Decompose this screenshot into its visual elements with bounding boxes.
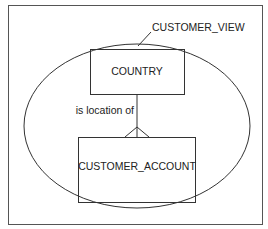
entity-customer-account-label: CUSTOMER_ACCOUNT [78, 160, 196, 172]
crows-foot-right [137, 127, 149, 137]
crows-foot-left [125, 127, 137, 137]
relationship-label: is location of [76, 104, 134, 116]
entity-country-label: COUNTRY [111, 65, 163, 77]
view-label: CUSTOMER_VIEW [152, 21, 245, 33]
er-diagram: CUSTOMER_VIEW COUNTRY is location of CUS… [0, 0, 268, 229]
frame-border [9, 6, 263, 225]
